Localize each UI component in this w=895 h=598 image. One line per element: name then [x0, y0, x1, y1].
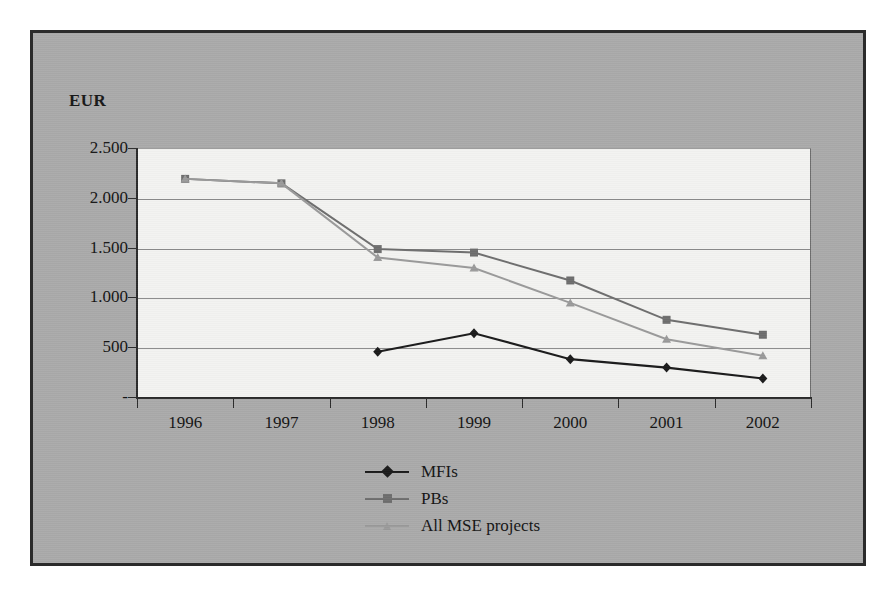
legend-key-diamond-icon	[363, 463, 411, 481]
value-axis-tick-mark	[128, 347, 136, 348]
legend-item: MFIs	[363, 458, 693, 485]
data-point-marker	[758, 374, 767, 384]
data-point-marker	[662, 363, 671, 373]
legend-key-triangle-icon	[363, 517, 411, 535]
data-point-marker	[566, 354, 575, 364]
value-axis-tick-mark	[128, 248, 136, 249]
legend-item: All MSE projects	[363, 512, 693, 539]
data-point-marker	[374, 245, 382, 253]
chart-figure: EUR 2.5002.0001.5001.000500- 19961997199…	[0, 0, 895, 598]
value-axis-tick-mark	[128, 148, 136, 149]
value-axis-tick-mark	[128, 198, 136, 199]
data-point-marker	[470, 249, 478, 257]
chart-legend: MFIsPBsAll MSE projects	[363, 458, 693, 539]
data-point-marker	[566, 276, 574, 284]
chart-frame: EUR 2.5002.0001.5001.000500- 19961997199…	[30, 30, 866, 566]
data-point-marker	[373, 347, 382, 357]
data-point-marker	[759, 331, 767, 339]
value-axis-tick-mark	[128, 297, 136, 298]
legend-item: PBs	[363, 485, 693, 512]
value-axis-tick-mark	[128, 397, 136, 398]
legend-label: All MSE projects	[411, 516, 540, 536]
data-point-marker	[663, 316, 671, 324]
series-line	[185, 179, 763, 335]
legend-label: MFIs	[411, 462, 458, 482]
series-mfis	[373, 328, 767, 383]
legend-key-square-icon	[363, 490, 411, 508]
legend-label: PBs	[411, 489, 448, 509]
series-pbs	[181, 175, 767, 339]
data-point-marker	[470, 328, 479, 338]
